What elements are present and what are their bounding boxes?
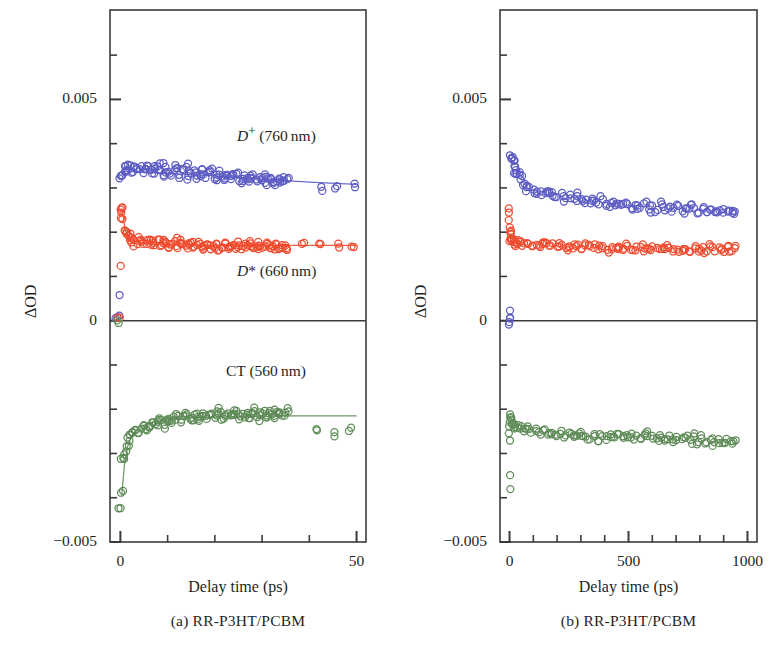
- data-point: [118, 489, 125, 496]
- data-point: [116, 292, 123, 299]
- x-tick-label: 1000: [702, 552, 779, 570]
- data-point: [507, 472, 514, 479]
- y-tick-label: 0.005: [13, 89, 97, 107]
- plot-frame: [500, 10, 757, 542]
- series-d-660-nm-: [114, 204, 357, 321]
- series-annotation-d-plus: D+ (760 nm): [237, 123, 316, 145]
- data-point: [117, 262, 124, 269]
- data-point: [505, 209, 512, 216]
- panel-b: [500, 10, 757, 542]
- data-point: [319, 187, 326, 194]
- x-tick-label: 0: [465, 552, 555, 570]
- data-point: [506, 437, 513, 444]
- x-axis-label: Delay time (ps): [148, 578, 328, 596]
- series-ct-560-nm-: [114, 317, 357, 512]
- x-tick-label: 0: [75, 552, 165, 570]
- y-axis-label: ΔOD: [412, 285, 430, 318]
- plot-canvas: [0, 0, 779, 645]
- y-tick-label: −0.005: [13, 532, 97, 550]
- y-tick-label: 0.005: [403, 89, 487, 107]
- series-annotation-d-star: D* (660 nm): [237, 262, 316, 280]
- x-tick-label: 50: [312, 552, 402, 570]
- data-point: [507, 486, 514, 493]
- figure-root: 0.0050−0.005050Delay time (ps)ΔOD(a) RR-…: [0, 0, 779, 645]
- panel-caption: (b) RR-P3HT/PCBM: [509, 612, 749, 630]
- x-axis-label: Delay time (ps): [539, 578, 719, 596]
- series-annotation-ct: CT (560 nm): [226, 362, 306, 380]
- data-point: [505, 217, 512, 224]
- series-ct-560-nm-: [505, 411, 739, 493]
- data-point: [711, 248, 718, 255]
- x-tick-label: 500: [584, 552, 674, 570]
- data-point: [331, 433, 338, 440]
- y-axis-label: ΔOD: [22, 285, 40, 318]
- data-point: [120, 487, 127, 494]
- data-point: [506, 307, 513, 314]
- y-tick-label: −0.005: [403, 532, 487, 550]
- panel-caption: (a) RR-P3HT/PCBM: [118, 612, 358, 630]
